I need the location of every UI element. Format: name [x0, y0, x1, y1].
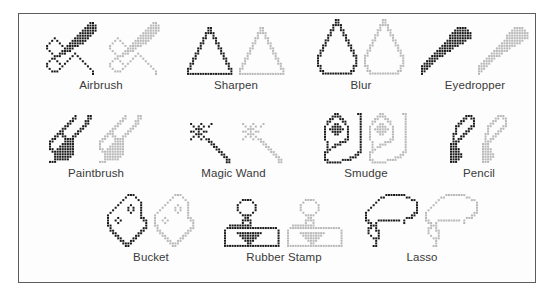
tool-cell-rubber-stamp: Rubber Stamp [209, 190, 359, 263]
icon-pair [301, 18, 421, 76]
eyedropper-icon-dark [421, 27, 472, 76]
tool-cell-airbrush: Airbrush [31, 18, 171, 91]
tool-label: Blur [301, 79, 421, 91]
tool-icon-reference-panel: AirbrushSharpenBlurEyedropper Paintbrush… [18, 13, 536, 283]
tool-label: Bucket [81, 251, 221, 263]
icon-pair [171, 18, 301, 76]
lasso-icon-light [425, 194, 479, 248]
icon-pair [31, 106, 161, 164]
rubber-stamp-icon-light [287, 199, 344, 248]
rubber-stamp-icon-dark [224, 199, 281, 248]
tool-row: BucketRubber StampLasso [19, 190, 535, 278]
icon-pair [424, 106, 534, 164]
blur-icon-light [364, 19, 405, 76]
magic-wand-icon-dark [185, 123, 231, 164]
airbrush-icon-dark [41, 22, 98, 76]
pencil-icon-dark [450, 115, 476, 164]
airbrush-icon-light [104, 22, 161, 76]
tool-row: PaintbrushMagic WandSmudgePencil [19, 106, 535, 186]
tool-cell-blur: Blur [301, 18, 421, 91]
tool-label: Lasso [347, 251, 497, 263]
sharpen-icon-light [239, 27, 285, 76]
sharpen-icon-dark [187, 27, 233, 76]
smudge-icon-dark [324, 113, 363, 164]
tool-label: Smudge [306, 167, 426, 179]
tool-label: Eyedropper [415, 79, 535, 91]
icon-pair [347, 190, 497, 248]
tool-label: Magic Wand [161, 167, 306, 179]
tool-label: Pencil [424, 167, 534, 179]
magic-wand-icon-light [237, 123, 283, 164]
lasso-icon-dark [365, 194, 419, 248]
icon-pair [31, 18, 171, 76]
tool-label: Paintbrush [31, 167, 161, 179]
tool-cell-lasso: Lasso [347, 190, 497, 263]
icon-pair [209, 190, 359, 248]
bucket-icon-dark [107, 194, 148, 248]
paintbrush-icon-light [99, 115, 143, 164]
eyedropper-icon-light [478, 27, 529, 76]
bucket-icon-light [154, 194, 195, 248]
paintbrush-icon-dark [49, 115, 93, 164]
icon-pair [81, 190, 221, 248]
tool-cell-paintbrush: Paintbrush [31, 106, 161, 179]
blur-icon-dark [317, 19, 358, 76]
tool-label: Airbrush [31, 79, 171, 91]
smudge-icon-light [369, 113, 408, 164]
tool-cell-sharpen: Sharpen [171, 18, 301, 91]
tool-row: AirbrushSharpenBlurEyedropper [19, 18, 535, 106]
tool-label: Sharpen [171, 79, 301, 91]
tool-cell-eyedropper: Eyedropper [415, 18, 535, 91]
tool-label: Rubber Stamp [209, 251, 359, 263]
icon-pair [415, 18, 535, 76]
tool-cell-smudge: Smudge [306, 106, 426, 179]
icon-pair [306, 106, 426, 164]
tool-cell-pencil: Pencil [424, 106, 534, 179]
icon-pair [161, 106, 306, 164]
pencil-icon-light [482, 115, 508, 164]
tool-cell-magic-wand: Magic Wand [161, 106, 306, 179]
tool-cell-bucket: Bucket [81, 190, 221, 263]
